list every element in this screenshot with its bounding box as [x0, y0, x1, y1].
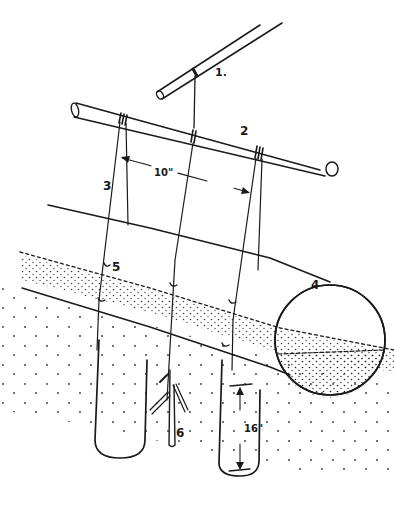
label-snare-line: 3 — [103, 179, 111, 193]
label-support-pole: 1. — [215, 66, 227, 79]
label-loop-spacing: 10" — [154, 167, 173, 178]
label-log: 4 — [311, 278, 319, 292]
label-loop-height: 16" — [244, 423, 263, 434]
label-crossbar: 2 — [240, 124, 248, 138]
label-trigger-stick: 6 — [176, 426, 184, 440]
snare-diagram: 1. 2 3 4 5 6 10" 16" — [0, 0, 394, 507]
label-attachment: 5 — [112, 260, 120, 274]
crossbar — [70, 102, 338, 176]
